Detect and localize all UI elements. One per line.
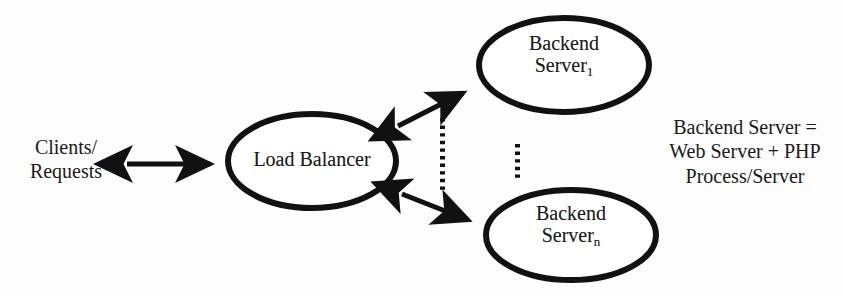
arrow-load-balancer-backend-bottom (402, 194, 468, 220)
clients-label-line1: Clients/ (4, 136, 128, 160)
legend-line-3: Process/Server (647, 164, 843, 188)
clients-requests-label: Clients/ Requests (4, 136, 128, 183)
legend-line-1: Backend Server = (647, 115, 843, 139)
backend-server-definition-legend: Backend Server = Web Server + PHP Proces… (647, 115, 843, 188)
diagram-canvas: Clients/ Requests Load Balancer Backend … (0, 0, 843, 296)
arrow-load-balancer-backend-top (398, 93, 463, 126)
clients-label-line2: Requests (4, 160, 128, 184)
backend-top-ellipse (479, 18, 649, 112)
legend-line-2: Web Server + PHP (647, 139, 843, 163)
backend-bottom-ellipse (486, 190, 656, 280)
load-balancer-ellipse (228, 114, 396, 208)
